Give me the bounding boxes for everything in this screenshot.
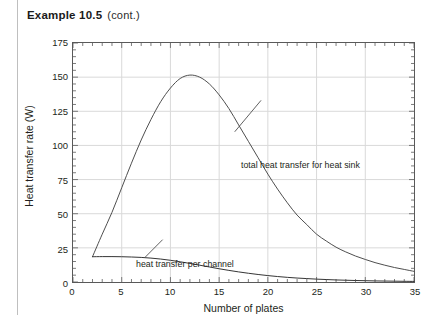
x-axis-title: Number of plates [72, 302, 415, 314]
x-tick-label: 0 [57, 286, 87, 297]
example-title: Example 10.5 [27, 9, 102, 21]
x-tick-label: 5 [106, 286, 136, 297]
page-canvas: Example 10.5(cont.) 0255075100125150175 … [0, 0, 438, 315]
annotation-total-heat-transfer: total heat transfer for heat sink [241, 160, 360, 170]
example-continued-label: (cont.) [107, 9, 140, 21]
y-axis-title: Heat transfer rate (W) [23, 66, 35, 246]
x-tick-label: 10 [155, 286, 185, 297]
x-tick-label: 30 [351, 286, 381, 297]
y-tick-label: 175 [28, 37, 68, 48]
x-tick-label: 20 [253, 286, 283, 297]
x-tick-label: 35 [400, 286, 430, 297]
x-tick-label: 25 [302, 286, 332, 297]
example-header: Example 10.5(cont.) [27, 9, 140, 21]
chart-figure: 0255075100125150175 05101520253035 Numbe… [0, 30, 438, 315]
x-axis-tick-labels: 05101520253035 [72, 286, 415, 302]
annotation-heat-transfer-per-channel: heat transfer per channel [136, 259, 234, 269]
x-tick-label: 15 [204, 286, 234, 297]
